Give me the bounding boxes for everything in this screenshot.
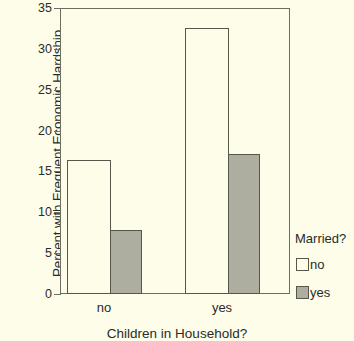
x-tick-label-yes: yes — [212, 300, 232, 315]
legend-title: Married? — [295, 231, 346, 246]
y-tick-label-35: 35 — [26, 1, 52, 15]
legend-swatch-no-icon — [296, 258, 309, 271]
y-tick-label-0: 0 — [26, 287, 52, 301]
y-tick-label-20: 20 — [26, 124, 52, 138]
y-tick-label-10: 10 — [26, 205, 52, 219]
legend-label-yes: yes — [310, 286, 330, 299]
y-tick-label-25: 25 — [26, 83, 52, 97]
bar-no-children-married — [110, 230, 142, 294]
legend-item-yes: yes — [296, 286, 330, 299]
legend-item-no: no — [296, 258, 324, 271]
bar-yes-children-married — [228, 154, 260, 294]
x-tick-label-no: no — [97, 300, 111, 315]
bar-yes-children-not-married — [185, 28, 229, 294]
x-axis-title: Children in Household? — [0, 326, 354, 341]
bar-no-children-not-married — [67, 160, 111, 294]
y-tick-label-15: 15 — [26, 164, 52, 178]
y-tick-label-5: 5 — [26, 246, 52, 260]
y-tick-0 — [54, 294, 61, 295]
y-tick-label-30: 30 — [26, 42, 52, 56]
legend-label-no: no — [310, 258, 324, 271]
legend-swatch-yes-icon — [296, 286, 309, 299]
